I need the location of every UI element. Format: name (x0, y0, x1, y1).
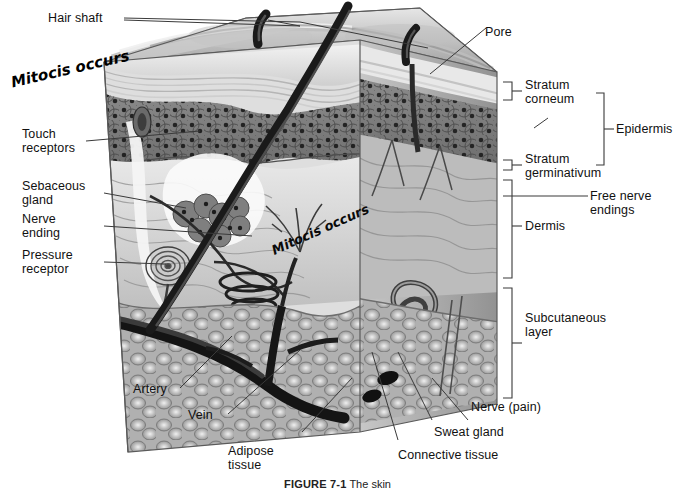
label-dermis: Dermis (525, 219, 565, 233)
label-sweat-gland: Sweat gland (434, 425, 504, 439)
label-nerve-ending: Nerve ending (22, 212, 60, 240)
label-adipose-tissue: Adipose tissue (228, 444, 274, 472)
caption-number: FIGURE 7-1 (284, 478, 347, 490)
label-hair-shaft: Hair shaft (48, 11, 103, 25)
label-artery: Artery (133, 382, 167, 396)
label-epidermis: Epidermis (616, 122, 672, 136)
label-subcutaneous-layer: Subcutaneous layer (525, 311, 606, 339)
block-right-face (355, 30, 505, 450)
skin-diagram (0, 0, 675, 491)
caption-title: The skin (349, 478, 391, 490)
label-vein: Vein (188, 408, 213, 422)
label-nerve-pain: Nerve (pain) (471, 400, 541, 414)
label-pore: Pore (485, 25, 512, 39)
label-connective-tissue: Connective tissue (398, 448, 498, 462)
layer-brackets (503, 82, 614, 398)
label-stratum-germinativum: Stratum germinativum (525, 152, 601, 180)
label-pressure-receptor: Pressure receptor (22, 248, 73, 276)
figure-canvas: Hair shaft Touch receptors Sebaceous gla… (0, 0, 675, 491)
label-free-nerve-endings: Free nerve endings (590, 189, 651, 217)
label-touch-receptors: Touch receptors (22, 127, 75, 155)
touch-receptor-shape (133, 107, 151, 137)
label-stratum-corneum: Stratum corneum (525, 78, 574, 106)
figure-caption: FIGURE 7-1 The skin (0, 478, 675, 491)
label-sebaceous-gland: Sebaceous gland (22, 179, 85, 207)
